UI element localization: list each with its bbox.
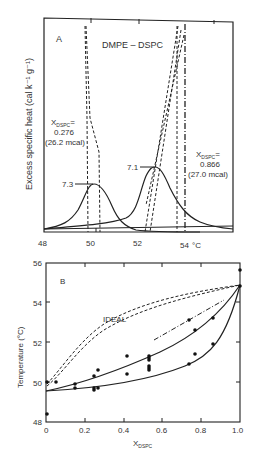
label-xdspc-0276: XDSPC= 0.276 (26.2 mcal)	[45, 118, 85, 147]
svg-text:0.276: 0.276	[54, 128, 75, 137]
svg-text:(27.0 mcal): (27.0 mcal)	[188, 170, 228, 179]
figure: A DMPE – DSPC Excess specific heat (cal …	[0, 0, 256, 459]
panel-b-ylabel: Temperature (°C)	[16, 326, 25, 388]
ideal-liquidus	[47, 285, 240, 384]
xtick-04: 0.4	[118, 426, 130, 435]
panel-b-xlabel: XDSPC	[133, 439, 153, 449]
peak-label-71: 7.1	[127, 163, 139, 172]
panel-a-title: DMPE – DSPC	[102, 40, 164, 50]
ytick-48: 48	[33, 418, 42, 427]
ytick-54: 54	[33, 299, 42, 308]
panel-b-label: B	[60, 277, 65, 286]
xtick-08: 0.8	[195, 426, 207, 435]
data-points	[45, 268, 242, 416]
svg-text:XDSPC=: XDSPC=	[51, 118, 75, 128]
panel-a-label: A	[56, 34, 62, 44]
ytick-56: 56	[33, 259, 42, 268]
peak-label-73: 7.3	[62, 180, 74, 189]
svg-text:(26.2 mcal): (26.2 mcal)	[45, 138, 85, 147]
xtick-06: 0.6	[156, 426, 168, 435]
svg-text:0.866: 0.866	[200, 160, 221, 169]
ytick-50: 50	[33, 379, 42, 388]
xtick-50: 50	[86, 239, 95, 248]
label-xdspc-0866: XDSPC= 0.866 (27.0 mcal)	[188, 150, 228, 179]
panel-b: B IDEAL 56 54 52 50 48 0 0.2 0.4 0.6 0.8…	[16, 259, 244, 449]
svg-text:XDSPC=: XDSPC=	[196, 150, 220, 160]
ideal-solidus	[47, 285, 240, 386]
panel-a: A DMPE – DSPC Excess specific heat (cal …	[24, 18, 233, 250]
xtick-10: 1.0	[232, 426, 244, 435]
xtick-02: 0.2	[79, 426, 91, 435]
xtick-52: 52	[133, 239, 142, 248]
xtick-48: 48	[38, 239, 47, 248]
fitted-liquidus	[46, 285, 240, 391]
xtick-0: 0	[44, 426, 49, 435]
xtick-54: 54	[180, 241, 189, 250]
ytick-52: 52	[33, 339, 42, 348]
panel-a-ylabel: Excess specific heat (cal k⁻¹ g⁻¹)	[24, 58, 34, 190]
panel-b-frame	[46, 263, 240, 422]
xunit: °C	[192, 241, 201, 250]
fitted-solidus	[46, 285, 240, 391]
